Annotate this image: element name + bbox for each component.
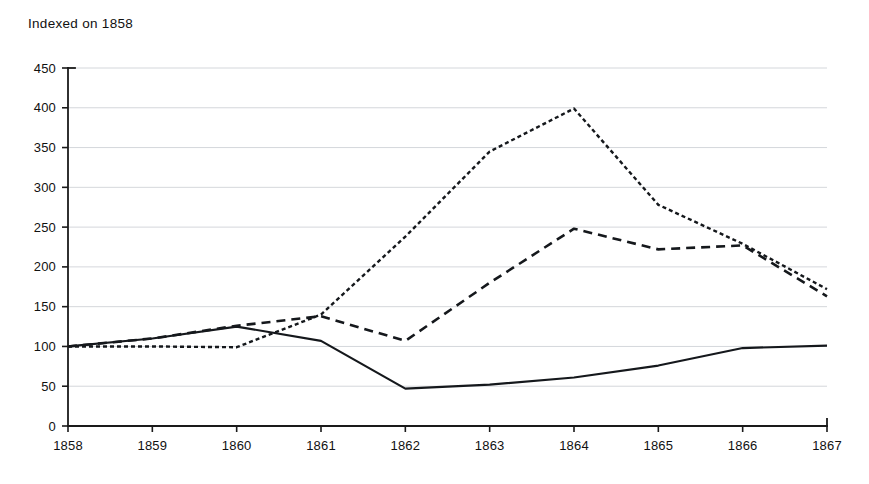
y-tick-label: 450 <box>34 61 56 76</box>
y-tick-label: 200 <box>34 259 56 274</box>
y-tick-label: 50 <box>41 379 56 394</box>
x-axis-ticks: 1858185918601861186218631864186518661867 <box>53 426 842 453</box>
series-long-dash <box>68 229 827 347</box>
y-axis-ticks: 050100150200250300350400450 <box>34 61 68 434</box>
y-tick-label: 150 <box>34 299 56 314</box>
axes <box>68 68 827 426</box>
x-tick-label: 1866 <box>728 438 758 453</box>
gridlines <box>68 68 827 386</box>
x-tick-label: 1862 <box>390 438 420 453</box>
x-tick-label: 1859 <box>137 438 167 453</box>
series-solid <box>68 327 827 389</box>
x-tick-label: 1865 <box>643 438 673 453</box>
y-tick-label: 400 <box>34 100 56 115</box>
y-tick-label: 100 <box>34 339 56 354</box>
y-tick-label: 0 <box>49 419 56 434</box>
line-chart-plot: 050100150200250300350400450 185818591860… <box>0 0 869 484</box>
y-tick-label: 300 <box>34 180 56 195</box>
x-tick-label: 1864 <box>559 438 589 453</box>
chart-container: Indexed on 1858 050100150200250300350400… <box>0 0 869 484</box>
x-tick-label: 1863 <box>475 438 505 453</box>
x-tick-label: 1858 <box>53 438 83 453</box>
y-tick-label: 350 <box>34 140 56 155</box>
x-tick-label: 1860 <box>222 438 252 453</box>
x-tick-label: 1861 <box>306 438 336 453</box>
y-tick-label: 250 <box>34 220 56 235</box>
x-tick-label: 1867 <box>812 438 842 453</box>
